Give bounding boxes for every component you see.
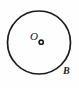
circle-diagram-figure: O B	[0, 0, 79, 88]
boundary-label: B	[63, 66, 70, 76]
center-label: O	[30, 31, 38, 42]
